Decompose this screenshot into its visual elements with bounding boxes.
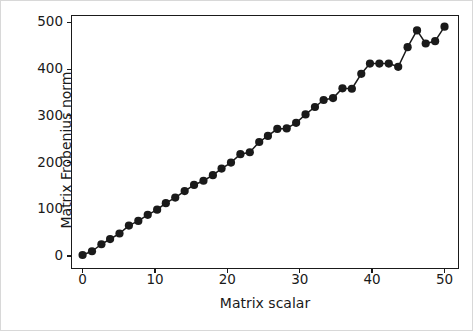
data-point-marker [348,85,356,93]
x-tick-label: 0 [63,273,103,287]
data-point-marker [292,119,300,127]
data-point-marker [357,70,365,78]
y-tick-mark [67,115,71,116]
data-point-marker [217,165,225,173]
y-tick-mark [67,69,71,70]
line-plot [71,15,459,269]
data-point-marker [440,23,448,31]
data-point-marker [134,217,142,225]
data-point-marker [413,26,421,34]
data-point-marker [375,59,383,67]
data-point-marker [338,84,346,92]
x-tick-mark [444,269,445,273]
data-point-marker [385,59,393,67]
data-point-marker [311,103,319,111]
y-axis-ticks: 0100200300400500 [1,1,63,331]
x-tick-label: 50 [425,273,465,287]
data-point-marker [181,187,189,195]
data-point-marker [97,240,105,248]
x-axis-label: Matrix scalar [71,295,459,311]
data-point-marker [264,132,272,140]
data-point-marker [301,110,309,118]
data-point-marker [283,124,291,132]
x-tick-label: 10 [135,273,175,287]
y-tick-label: 400 [5,62,63,76]
data-point-marker [115,229,123,237]
x-tick-label: 30 [280,273,320,287]
data-point-marker [125,221,133,229]
x-tick-mark [82,269,83,273]
data-point-marker [273,125,281,133]
data-point-marker [209,171,217,179]
y-tick-label: 0 [5,249,63,263]
data-point-marker [190,181,198,189]
y-axis-label: Matrix Frobenius norm [58,23,74,277]
chart-screenshot: 0100200300400500 Matrix scalar Matrix Fr… [0,0,473,331]
x-tick-label: 40 [352,273,392,287]
x-tick-mark [371,269,372,273]
y-tick-label: 200 [5,156,63,170]
matplotlib-figure: 0100200300400500 Matrix scalar Matrix Fr… [1,1,472,330]
data-point-marker [199,177,207,185]
y-tick-label: 300 [5,109,63,123]
data-point-marker [394,63,402,71]
data-point-marker [171,193,179,201]
data-point-marker [431,37,439,45]
y-tick-label: 500 [5,16,63,30]
y-tick-mark [67,162,71,163]
data-point-marker [78,251,86,259]
data-point-marker [236,150,244,158]
y-tick-mark [67,255,71,256]
data-point-marker [366,59,374,67]
x-tick-mark [227,269,228,273]
data-point-marker [144,211,152,219]
data-point-marker [88,247,96,255]
data-point-marker [162,199,170,207]
data-point-marker [227,158,235,166]
y-tick-label: 100 [5,202,63,216]
data-point-marker [246,148,254,156]
data-point-marker [106,235,114,243]
data-point-marker [404,43,412,51]
data-point-marker [320,96,328,104]
data-point-marker [329,94,337,102]
y-tick-mark [67,22,71,23]
x-tick-mark [299,269,300,273]
data-point-marker [255,138,263,146]
y-tick-mark [67,209,71,210]
data-point-marker [422,39,430,47]
data-point-marker [153,206,161,214]
x-tick-mark [154,269,155,273]
x-tick-label: 20 [207,273,247,287]
